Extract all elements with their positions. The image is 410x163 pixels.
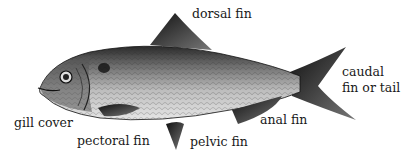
label-pelvic-fin: pelvic fin — [190, 135, 248, 149]
label-gill-cover: gill cover — [14, 116, 73, 130]
pelvic-fin — [166, 122, 184, 150]
label-caudal-line1: caudal — [342, 65, 384, 79]
label-anal-fin: anal fin — [260, 113, 307, 127]
label-dorsal-fin: dorsal fin — [192, 7, 252, 21]
label-caudal-line2: fin or tail — [342, 81, 400, 95]
label-pectoral-fin: pectoral fin — [77, 134, 150, 148]
fish-diagram: dorsal fin caudal fin or tail anal fin p… — [0, 0, 410, 163]
